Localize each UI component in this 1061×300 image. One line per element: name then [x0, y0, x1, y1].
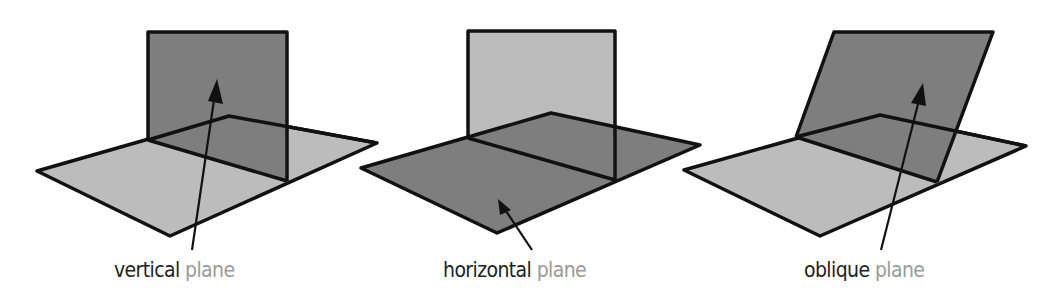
- figure-oblique-plane: [684, 32, 1026, 250]
- caption-sub: plane: [537, 258, 586, 282]
- figure-horizontal-plane: [361, 31, 700, 250]
- caption-horizontal-plane: horizontal plane: [443, 257, 586, 283]
- caption-main: horizontal: [443, 258, 531, 282]
- caption-main: oblique: [804, 258, 869, 282]
- caption-sub: plane: [185, 258, 234, 282]
- horizontal-plane: [361, 113, 700, 233]
- planes-diagram: [0, 0, 1061, 300]
- figure-vertical-plane: [37, 32, 377, 250]
- caption-vertical-plane: vertical plane: [114, 257, 234, 283]
- caption-sub: plane: [875, 258, 924, 282]
- caption-main: vertical: [114, 258, 180, 282]
- caption-oblique-plane: oblique plane: [804, 257, 924, 283]
